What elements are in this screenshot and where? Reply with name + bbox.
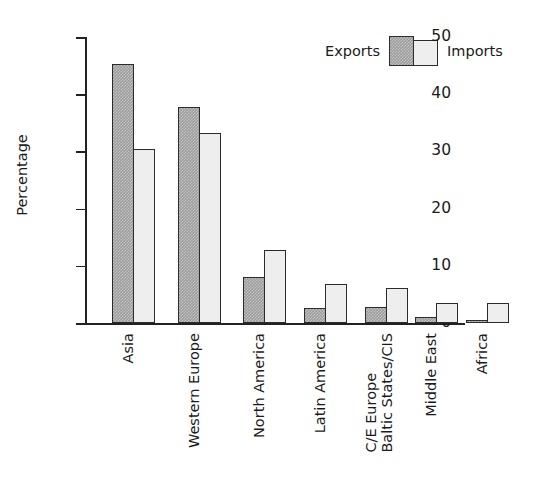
y-tick-mark — [76, 151, 85, 153]
y-tick-mark — [76, 266, 85, 268]
bar-chart: Exports Imports Percentage 50403020100 A… — [0, 0, 543, 504]
bar-group — [365, 37, 408, 323]
category-label: Asia — [120, 333, 136, 363]
bar-exports — [178, 107, 200, 323]
bar-group — [112, 37, 155, 323]
y-tick-mark — [76, 94, 85, 96]
bar-imports — [436, 303, 458, 323]
y-axis-line — [85, 37, 87, 323]
category-label: Africa — [474, 333, 490, 374]
bar-group — [466, 37, 509, 323]
x-axis-line — [85, 323, 465, 325]
bar-exports — [466, 320, 488, 323]
bar-exports — [415, 317, 437, 323]
bar-imports — [487, 303, 509, 323]
plot-area: 50403020100 — [85, 37, 465, 323]
bar-group — [178, 37, 221, 323]
y-tick-mark — [76, 209, 85, 211]
y-axis-title: Percentage — [15, 134, 30, 216]
bar-imports — [199, 133, 221, 323]
y-tick-mark — [76, 37, 85, 39]
bar-imports — [386, 288, 408, 323]
category-label: Latin America — [312, 333, 328, 433]
bar-imports — [264, 250, 286, 323]
bar-group — [243, 37, 286, 323]
y-tick-mark — [76, 323, 85, 325]
bar-group — [304, 37, 347, 323]
bar-imports — [325, 284, 347, 323]
bar-exports — [112, 64, 134, 323]
category-label: C/E EuropeBaltic States/CIS — [363, 333, 395, 453]
category-label: Western Europe — [186, 333, 202, 448]
category-label: North America — [251, 333, 267, 438]
bar-exports — [304, 308, 326, 323]
bar-group — [415, 37, 458, 323]
bar-exports — [243, 277, 265, 323]
category-label: Middle East — [423, 333, 439, 417]
bar-imports — [133, 149, 155, 323]
bar-exports — [365, 307, 387, 323]
